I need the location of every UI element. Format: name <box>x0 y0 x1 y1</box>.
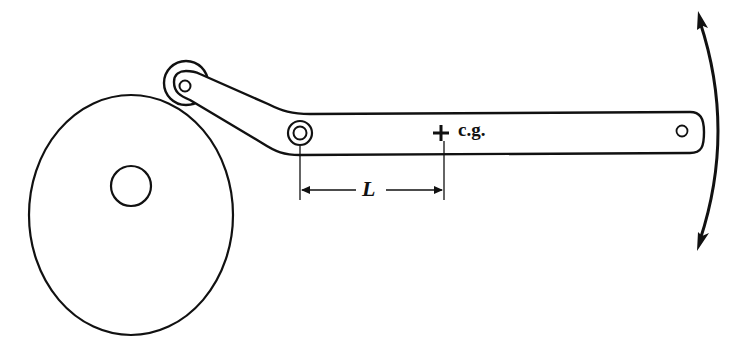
disc <box>29 95 233 335</box>
distance-label: L <box>362 176 375 202</box>
diagram-canvas: c.g. L <box>0 0 748 348</box>
cg-label: c.g. <box>458 119 485 141</box>
arm <box>174 71 704 155</box>
disc-hub-icon <box>111 166 151 206</box>
linkage-drawing <box>0 0 748 348</box>
